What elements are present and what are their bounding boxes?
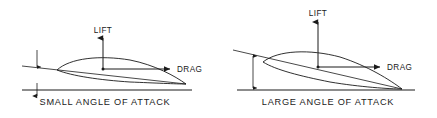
- center-of-pressure-dot-large: [317, 66, 320, 69]
- panel-large-angle-of-attack: LIFT DRAG LARGE ANGLE OF ATTACK: [233, 9, 415, 107]
- lift-label-large: LIFT: [309, 9, 327, 18]
- airfoil-angle-of-attack-figure: LIFT DRAG SMALL ANGLE OF ATTACK LIFT DRA…: [0, 0, 437, 118]
- drag-label-large: DRAG: [387, 63, 412, 72]
- drag-label-small: DRAG: [177, 65, 202, 74]
- panel-small-angle-of-attack: LIFT DRAG SMALL ANGLE OF ATTACK: [22, 26, 202, 107]
- caption-small-angle: SMALL ANGLE OF ATTACK: [40, 97, 171, 107]
- airfoil-upper-surface-small: [57, 58, 186, 84]
- caption-large-angle: LARGE ANGLE OF ATTACK: [262, 97, 394, 107]
- lift-label-small: LIFT: [94, 26, 112, 35]
- center-of-pressure-dot-small: [102, 68, 105, 71]
